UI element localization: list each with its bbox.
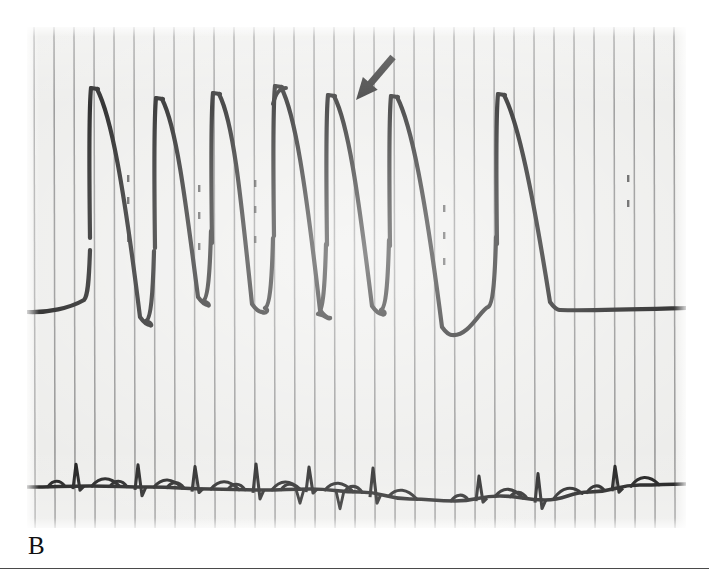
waveform-traces <box>27 27 686 528</box>
panel-label: B <box>28 531 45 561</box>
recorder-dropout-tick <box>127 175 129 182</box>
pressure-diastole-3 <box>262 238 273 313</box>
ecg-qrs-4 <box>253 464 264 499</box>
pressure-downstroke-7 <box>504 95 560 310</box>
pressure-upstroke-2 <box>154 98 156 248</box>
recorder-dropout-tick <box>443 205 445 212</box>
recorder-dropout-tick <box>198 185 200 192</box>
pressure-upstroke-5 <box>326 95 328 245</box>
pressure-downstroke-5 <box>334 96 382 314</box>
recorder-dropout-tick <box>627 175 629 182</box>
ecg-qrs-8 <box>535 474 546 509</box>
ecg-qrs-2 <box>135 465 146 496</box>
figure-panel-b: B <box>0 0 709 579</box>
pressure-diastole-6 <box>452 237 496 335</box>
pressure-segment-lead <box>27 250 90 312</box>
pressure-downstroke-1 <box>97 89 150 325</box>
ecg-qrs-3 <box>192 467 203 493</box>
recorder-dropout-tick <box>627 200 629 207</box>
pressure-diastole-4 <box>318 244 330 319</box>
ecg-negative-deflection-1 <box>336 491 344 509</box>
recorder-dropout-tick <box>443 258 445 265</box>
recorder-dropout-tick <box>127 197 129 204</box>
recorder-dropout-tick <box>254 236 256 243</box>
ecg-trace <box>27 464 686 509</box>
ecg-negative-deflection-2 <box>296 489 304 503</box>
pressure-downstroke-2 <box>162 99 208 305</box>
pressure-upstroke-6 <box>389 96 391 246</box>
recorder-dropout-tick <box>198 212 200 219</box>
pressure-diastole-tail <box>560 308 686 310</box>
chart-paper-tracing-area <box>27 27 686 528</box>
ecg-qrs-5 <box>306 467 317 493</box>
ecg-qrs-1 <box>73 464 84 490</box>
pressure-downstroke-6 <box>397 97 452 335</box>
ecg-qrs-7 <box>476 476 487 502</box>
annotation-arrow-icon <box>356 57 393 100</box>
pressure-diastole-2 <box>203 231 211 306</box>
recorder-dropout-tick <box>198 243 200 250</box>
pressure-diastole-1 <box>146 251 154 326</box>
recorder-dropout-tick <box>127 235 129 242</box>
pressure-upstroke-4 <box>273 86 275 236</box>
pressure-downstroke-3 <box>219 94 262 312</box>
recorder-dropout-tick <box>254 206 256 213</box>
recorder-dropout-tick <box>254 180 256 187</box>
ecg-qrs-9 <box>612 466 623 492</box>
recorder-dropout-tick <box>443 232 445 239</box>
ecg-qrs-6 <box>370 468 381 503</box>
pressure-upstroke-3 <box>211 93 213 243</box>
figure-bottom-rule <box>0 568 709 569</box>
pressure-upstroke-1 <box>89 88 91 238</box>
pressure-upstroke-7 <box>496 94 498 244</box>
lv-pressure-trace <box>27 86 686 335</box>
pressure-diastole-5 <box>381 240 389 315</box>
